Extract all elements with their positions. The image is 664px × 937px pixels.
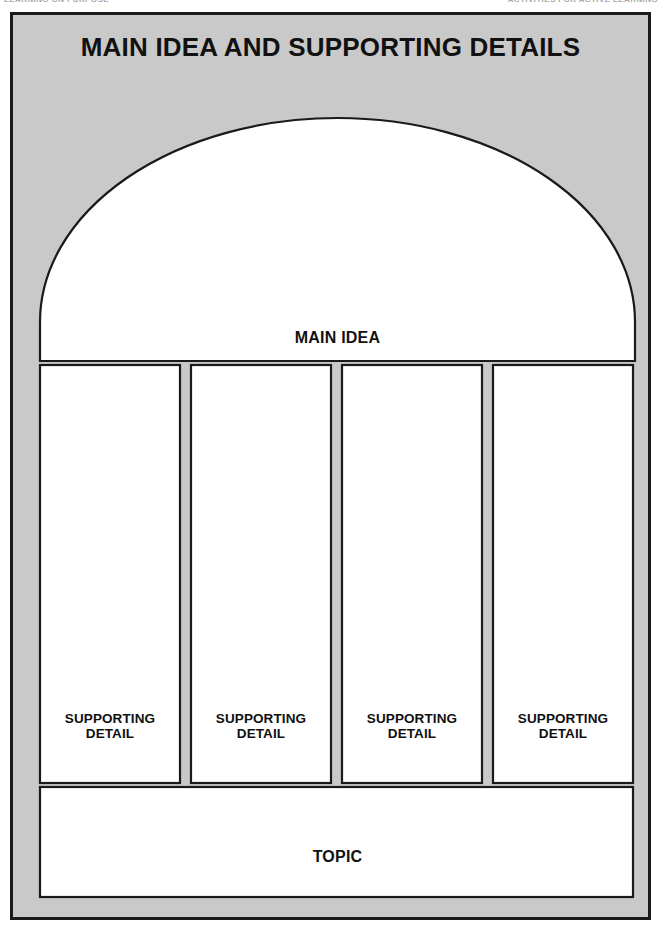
page-header-right-text: ACTIVITIES FOR ACTIVE LEARNING	[508, 0, 658, 4]
page-header-left-text: LEARNING ON PURPOSE	[4, 0, 109, 4]
graphic-organizer-diagram	[13, 15, 648, 917]
main-idea-arch-field[interactable]	[40, 118, 635, 361]
supporting-detail-column-1[interactable]	[40, 365, 180, 783]
supporting-detail-column-3[interactable]	[342, 365, 482, 783]
topic-field[interactable]	[40, 787, 633, 897]
supporting-detail-column-2[interactable]	[191, 365, 331, 783]
worksheet-page: MAIN IDEA AND SUPPORTING DETAILS MAIN ID…	[10, 12, 651, 920]
supporting-detail-column-4[interactable]	[493, 365, 633, 783]
page-header-strip: LEARNING ON PURPOSE ACTIVITIES FOR ACTIV…	[0, 0, 664, 11]
